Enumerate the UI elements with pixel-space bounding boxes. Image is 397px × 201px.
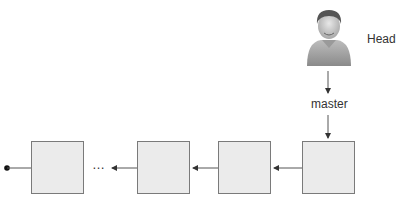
head-label: Head: [367, 32, 396, 46]
commit-box-2: [137, 141, 190, 194]
user-avatar-icon: [303, 4, 355, 68]
commit-box-4: [302, 141, 355, 194]
head-avatar: [303, 4, 355, 68]
commit-box-1: [31, 141, 84, 194]
branch-label-master: master: [311, 97, 348, 111]
commit-box-3: [218, 141, 271, 194]
ellipsis: …: [92, 157, 105, 172]
